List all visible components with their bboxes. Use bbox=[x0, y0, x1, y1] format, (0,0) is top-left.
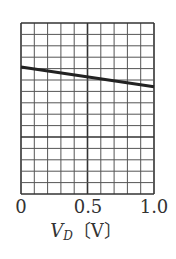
x-tick-label-0: 0 bbox=[15, 198, 26, 216]
x-axis-label-var: V bbox=[50, 220, 63, 241]
x-axis-label-unit: 〔V〕 bbox=[73, 220, 122, 241]
x-tick-label-0-5: 0.5 bbox=[74, 198, 103, 216]
x-tick-label-1-0: 1.0 bbox=[140, 198, 169, 216]
chart-plot-area bbox=[0, 0, 176, 200]
x-axis-label: VD〔V〕 bbox=[50, 222, 122, 240]
x-axis-label-sub: D bbox=[63, 229, 73, 243]
